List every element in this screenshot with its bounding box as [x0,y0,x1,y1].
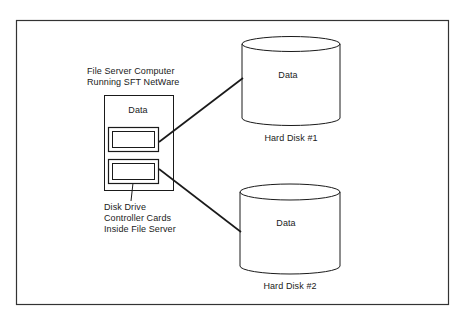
hard-disk-1-cylinder [242,37,340,126]
connection-line-disk-2 [159,169,241,232]
cards-pointer-line [131,183,133,201]
outer-frame [17,21,449,305]
diagram-canvas [0,0,464,320]
cards-label-line1: Disk Drive [104,202,146,213]
disk-2-name: Hard Disk #2 [263,281,316,292]
disk-2-data-label: Data [276,218,295,229]
server-title-line1: File Server Computer [87,66,175,77]
hard-disk-2-cylinder [240,184,340,274]
disk-1-name: Hard Disk #1 [264,133,317,144]
server-data-label: Data [128,105,147,116]
cards-label-line2: Controller Cards [104,213,171,224]
controller-card-2 [109,160,159,184]
server-title-line2: Running SFT NetWare [87,77,179,88]
cards-label-line3: Inside File Server [104,224,176,235]
controller-card-1 [109,128,159,152]
disk-1-data-label: Data [278,70,297,81]
